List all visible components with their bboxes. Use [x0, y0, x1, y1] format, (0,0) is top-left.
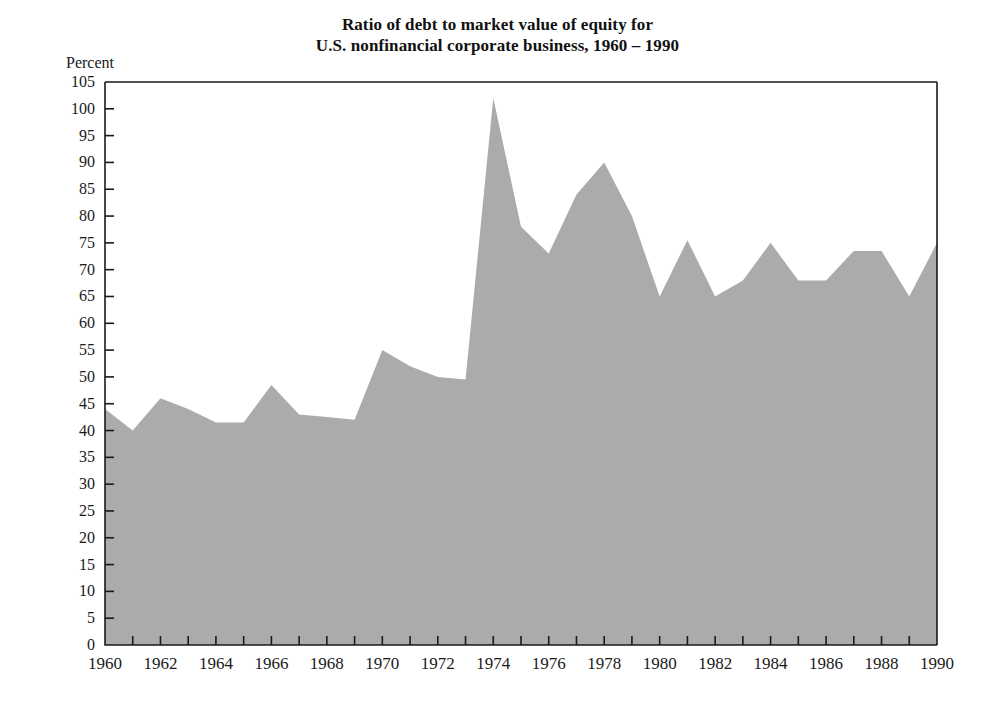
y-axis-tick-label: 65: [51, 288, 95, 304]
y-axis-tick-label: 75: [51, 235, 95, 251]
y-axis-tick-label: 80: [51, 208, 95, 224]
y-axis-tick-label: 60: [51, 315, 95, 331]
y-axis-tick-label: 95: [51, 128, 95, 144]
y-axis-tick-label: 5: [51, 610, 95, 626]
y-axis-tick-label: 10: [51, 583, 95, 599]
y-axis-tick-label: 50: [51, 369, 95, 385]
y-axis-tick-label: 70: [51, 262, 95, 278]
x-axis-tick-label: 1990: [902, 655, 972, 673]
area-series-group: [105, 98, 937, 645]
chart-figure: Ratio of debt to market value of equity …: [0, 0, 995, 707]
y-axis-tick-label: 55: [51, 342, 95, 358]
plot-area: [0, 0, 995, 707]
y-axis-tick-label: 15: [51, 557, 95, 573]
y-axis-tick-label: 45: [51, 396, 95, 412]
y-axis-tick-label: 85: [51, 181, 95, 197]
y-axis-tick-label: 105: [51, 74, 95, 90]
y-axis-tick-label: 40: [51, 423, 95, 439]
debt-to-equity-area-series: [105, 98, 937, 645]
y-axis-tick-label: 100: [51, 101, 95, 117]
y-axis-tick-label: 90: [51, 154, 95, 170]
y-axis-tick-label: 30: [51, 476, 95, 492]
y-axis-tick-label: 0: [51, 637, 95, 653]
y-axis-tick-label: 35: [51, 449, 95, 465]
y-axis-tick-label: 20: [51, 530, 95, 546]
y-axis-tick-label: 25: [51, 503, 95, 519]
